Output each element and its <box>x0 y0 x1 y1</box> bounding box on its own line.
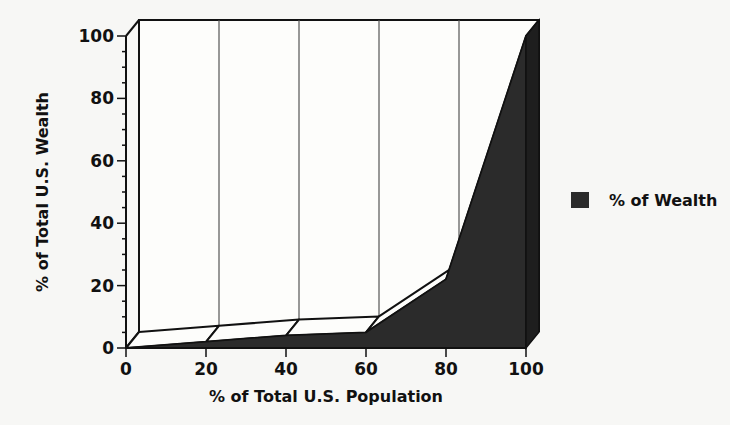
x-tick-label: 80 <box>434 359 458 379</box>
legend: % of Wealth <box>571 191 717 210</box>
legend-label: % of Wealth <box>609 191 717 210</box>
x-tick-label: 40 <box>274 359 298 379</box>
y-tick-label: 80 <box>90 88 114 108</box>
x-axis-title: % of Total U.S. Population <box>209 387 443 406</box>
y-tick-label: 20 <box>90 276 114 296</box>
x-tick-label: 60 <box>354 359 378 379</box>
chart: 020406080100 020406080100 % of Total U.S… <box>0 0 730 425</box>
y-tick-label: 40 <box>90 213 114 233</box>
y-tick-label: 0 <box>102 338 114 358</box>
area-side-face <box>526 20 539 348</box>
x-axis: 020406080100 <box>120 348 544 379</box>
x-tick-label: 0 <box>120 359 132 379</box>
y-tick-label: 60 <box>90 151 114 171</box>
y-axis: 020406080100 <box>79 26 127 358</box>
side-wall-edge <box>126 20 139 36</box>
y-axis-title: % of Total U.S. Wealth <box>33 92 52 292</box>
x-tick-label: 100 <box>508 359 544 379</box>
x-tick-label: 20 <box>194 359 218 379</box>
legend-swatch <box>571 192 589 208</box>
y-tick-label: 100 <box>79 26 115 46</box>
